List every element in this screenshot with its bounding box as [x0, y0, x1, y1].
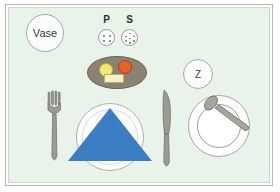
shaker-hole-icon — [103, 35, 105, 37]
cup-marker-circle[interactable]: Z — [183, 59, 213, 89]
shaker-hole-icon — [129, 33, 131, 35]
butter-pat[interactable] — [104, 74, 124, 83]
place-setting-diagram: Vase P S — [0, 0, 280, 192]
cup-marker-label: Z — [195, 69, 201, 80]
oval-platter[interactable] — [87, 56, 147, 89]
orange-round-food[interactable] — [118, 60, 132, 74]
pepper-shaker[interactable] — [98, 29, 115, 46]
blue-triangle-napkin[interactable] — [68, 108, 152, 161]
pepper-label: P — [98, 14, 115, 25]
shaker-hole-icon — [133, 40, 135, 42]
salt-shaker[interactable] — [121, 29, 138, 46]
teaspoon[interactable] — [198, 94, 256, 134]
dinner-fork[interactable] — [44, 90, 66, 170]
salt-label: S — [121, 14, 138, 25]
dinner-knife[interactable] — [158, 88, 176, 172]
shaker-hole-icon — [125, 40, 127, 42]
shaker-hole-icon — [109, 35, 111, 37]
shaker-hole-icon — [103, 40, 105, 42]
vase-placeholder-circle[interactable]: Vase — [26, 14, 64, 52]
shaker-hole-icon — [125, 36, 127, 38]
vase-label: Vase — [33, 27, 57, 39]
shaker-hole-icon — [129, 42, 131, 44]
shaker-hole-icon — [133, 36, 135, 38]
shaker-hole-icon — [129, 38, 131, 40]
shaker-hole-icon — [109, 40, 111, 42]
